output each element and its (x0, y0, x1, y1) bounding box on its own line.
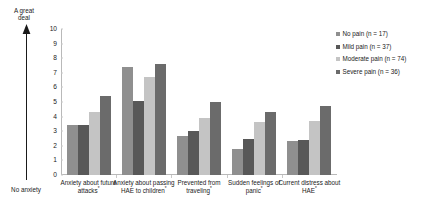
legend-item-label: No pain (n = 17) (343, 31, 388, 37)
bar (177, 136, 188, 175)
bar (320, 106, 331, 175)
y-axis-tick-label: 4 (43, 113, 57, 120)
legend-swatch-icon (336, 70, 340, 74)
y-axis-tick-label: 8 (43, 55, 57, 62)
bar-group: Sudden feelings ofpanic* (227, 29, 282, 175)
bar (265, 112, 276, 175)
axis-anchor-top: A great deal (2, 7, 46, 22)
bar (232, 149, 243, 175)
plot-area: 109876543210 Anxiety about futureattacks… (61, 29, 337, 175)
axis-anchor-bottom: No anxiety (0, 186, 52, 193)
bar (67, 125, 78, 175)
y-axis-tick-label: 3 (43, 128, 57, 135)
bar (122, 67, 133, 175)
category-label: Current distress aboutHAE* (270, 179, 349, 194)
bar-group-bars (116, 29, 171, 175)
bar-group-bars (171, 29, 226, 175)
bar (188, 131, 199, 175)
y-axis-tick-label: 5 (43, 99, 57, 106)
legend-swatch-icon (336, 32, 340, 36)
bar (155, 64, 166, 175)
bar (199, 118, 210, 175)
bar (243, 139, 254, 176)
bar (298, 140, 309, 175)
legend: No pain (n = 17)Mild pain (n = 37)Modera… (336, 28, 446, 78)
legend-swatch-icon (336, 45, 340, 49)
y-axis-tick-label: 10 (43, 26, 57, 33)
bar (133, 101, 144, 175)
bar-group-bars (61, 29, 116, 175)
legend-item[interactable]: Moderate pain (n = 74) (336, 53, 446, 66)
legend-item-label: Mild pain (n = 37) (343, 44, 392, 50)
bar (287, 141, 298, 175)
category-separator-tick (116, 175, 117, 178)
category-separator-tick (282, 175, 283, 178)
y-axis-tick-label: 7 (43, 70, 57, 77)
bar-group: Current distress aboutHAE* (282, 29, 337, 175)
legend-item-label: Moderate pain (n = 74) (343, 56, 407, 62)
bar (309, 121, 320, 175)
bar (100, 96, 111, 175)
bar-group: Anxiety about passingHAE to children* (116, 29, 171, 175)
bar (144, 77, 155, 175)
legend-item[interactable]: Severe pain (n = 36) (336, 66, 446, 79)
category-separator-tick (171, 175, 172, 178)
bar (78, 125, 89, 175)
bar (254, 122, 265, 175)
category-separator-tick (227, 175, 228, 178)
y-axis-tick-label: 2 (43, 143, 57, 150)
y-axis-tick-label: 0 (43, 172, 57, 179)
bar (89, 112, 100, 175)
legend-item[interactable]: Mild pain (n = 37) (336, 41, 446, 54)
legend-swatch-icon (336, 57, 340, 61)
upward-arrow-icon (22, 24, 31, 180)
grouped-bar-chart: A great deal No anxiety 109876543210 Anx… (0, 0, 447, 214)
legend-item[interactable]: No pain (n = 17) (336, 28, 446, 41)
bar-group-bars (282, 29, 337, 175)
bar-group: Anxiety about futureattacks* (61, 29, 116, 175)
legend-item-label: Severe pain (n = 36) (343, 69, 400, 75)
bar (210, 102, 221, 175)
bar-group-bars (227, 29, 282, 175)
y-axis-tick-label: 9 (43, 40, 57, 47)
y-axis-tick-label: 6 (43, 84, 57, 91)
bar-group: Prevented fromtraveling* (171, 29, 226, 175)
y-axis-tick-label: 1 (43, 157, 57, 164)
